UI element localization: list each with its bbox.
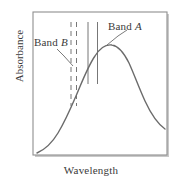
x-axis-label: Wavelength [0, 165, 182, 176]
y-axis-label-container: Absorbance [11, 1, 27, 111]
band-b-label-prefix: Band [34, 36, 61, 48]
y-axis-label: Absorbance [11, 1, 27, 111]
band-a-label-prefix: Band [108, 20, 135, 32]
plot-canvas [0, 0, 182, 183]
absorbance-spectrum-figure: Band A Band B Wavelength Absorbance [0, 0, 182, 183]
band-b-annotation-label: Band B [34, 37, 68, 48]
band-a-label-symbol: A [135, 20, 142, 32]
plot-frame [33, 12, 167, 155]
band-a-annotation-label: Band A [108, 21, 142, 32]
band-b-label-symbol: B [61, 36, 68, 48]
